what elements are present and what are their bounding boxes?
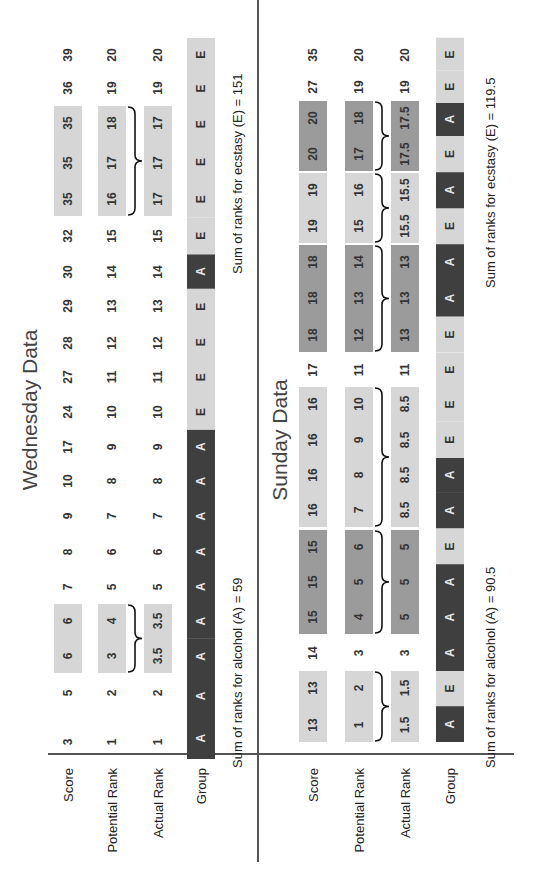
wed-actual-rank-cell: 2 [144,676,172,711]
wed-potential-rank-cell: 15 [98,219,126,254]
sun-label-potential-rank: Potential Rank [352,768,367,878]
sun-actual-rank-cell: 5 [391,565,419,600]
wed-group-cell-alcohol: A [187,638,215,675]
wed-label-potential-rank: Potential Rank [105,768,120,878]
sun-actual-rank-cell: 1.5 [391,671,419,706]
wed-score-cell: 39 [54,38,82,73]
sun-score-cell: 13 [299,708,327,743]
sun-group-cell-alcohol: A [436,492,464,529]
sun-tie-brace [374,173,390,243]
wed-potential-rank-cell: 13 [98,289,126,324]
wed-group-cell-ecstasy: E [187,324,215,360]
sun-actual-rank-cell: 3 [391,636,419,671]
sun-tie-brace-path [375,102,389,170]
sun-actual-rank-cell: 15.5 [391,173,419,208]
sun-actual-rank-cell: 8.5 [391,387,419,422]
sun-score-cell: 20 [299,137,327,172]
wed-tie-brace-path [128,605,142,672]
sun-potential-rank-cell: 20 [345,38,373,73]
sun-potential-rank-cell: 7 [345,493,373,528]
sun-potential-rank-cell: 16 [345,173,373,208]
sun-sum-alcohol: Sum of ranks for alcohol (A) = 90.5 [483,567,498,768]
sun-score-cell: 35 [299,38,327,73]
wed-group-cell-ecstasy: E [187,217,215,254]
section-divider [257,0,259,862]
sun-score-cell: 16 [299,387,327,422]
wed-potential-rank-cell: 10 [98,395,126,430]
wed-score-cell: 3 [54,725,82,760]
wed-score-cell: 35 [54,146,82,181]
sun-actual-rank-cell: 5 [391,600,419,635]
sun-potential-rank-cell: 17 [345,137,373,172]
sun-score-cell: 19 [299,209,327,244]
sun-group-cell-ecstasy: E [436,352,464,387]
sun-tie-brace [374,387,390,527]
sun-potential-rank-cell: 2 [345,671,373,706]
wed-group-cell-alcohol: A [187,569,215,604]
sun-tie-brace [374,245,390,352]
wed-score-cell: 32 [54,219,82,254]
wed-label-group: Group [194,768,209,878]
wed-actual-rank-cell: 3.5 [144,604,172,639]
sun-group-cell-alcohol: A [436,599,464,635]
wed-score-cell: 24 [54,395,82,430]
sun-group-cell-alcohol: A [436,706,464,742]
wed-potential-rank-cell: 19 [98,71,126,106]
wed-group-cell-alcohol: A [187,254,215,290]
wed-score-cell: 6 [54,604,82,639]
wed-potential-rank-cell: 7 [98,499,126,534]
wed-actual-rank-cell: 8 [144,464,172,499]
sun-sum-ecstasy: Sum of ranks for ecstasy (E) = 119.5 [483,78,498,288]
sun-actual-rank-cell: 13 [391,318,419,353]
sun-group-cell-ecstasy: E [436,387,464,423]
sun-score-cell: 15 [299,565,327,600]
wed-score-cell: 5 [54,676,82,711]
sun-potential-rank-cell: 19 [345,70,373,105]
wed-group-cell-alcohol: A [187,604,215,639]
wed-score-cell: 8 [54,535,82,570]
wednesday-title: Wednesday Data [18,330,42,491]
wed-sum-ecstasy: Sum of ranks for ecstasy (E) = 151 [230,74,245,275]
sun-potential-rank-cell: 18 [345,101,373,136]
sun-actual-rank-cell: 8.5 [391,423,419,458]
wed-actual-rank-cell: 15 [144,219,172,254]
sun-actual-rank-cell: 13 [391,281,419,316]
sun-potential-rank-cell: 15 [345,209,373,244]
sun-actual-rank-cell: 8.5 [391,458,419,493]
wed-potential-rank-cell: 5 [98,570,126,605]
sun-tie-brace [374,671,390,742]
wed-group-cell-alcohol: A [187,674,215,718]
sun-potential-rank-cell: 14 [345,245,373,280]
wed-actual-rank-cell: 13 [144,289,172,324]
rank-table-figure: Wednesday Data Sunday Data Score Potenti… [0,0,536,886]
sun-score-cell: 27 [299,70,327,105]
wed-score-cell: 17 [54,430,82,465]
wed-potential-rank-cell: 12 [98,326,126,361]
sun-tie-brace-path [375,246,389,351]
wed-potential-rank-cell: 11 [98,360,126,395]
sun-score-cell: 13 [299,671,327,706]
wed-tie-brace [127,106,143,216]
sun-tie-brace-path [375,531,389,633]
wed-actual-rank-cell: 6 [144,535,172,570]
wed-potential-rank-cell: 4 [98,604,126,639]
sun-actual-rank-cell: 8.5 [391,493,419,528]
sun-actual-rank-cell: 17.5 [391,137,419,172]
wed-score-cell: 35 [54,106,82,141]
sun-label-actual-rank: Actual Rank [398,768,413,878]
wed-actual-rank-cell: 17 [144,106,172,141]
sun-group-cell-ecstasy: E [436,208,464,245]
sun-actual-rank-cell: 20 [391,38,419,73]
sun-potential-rank-cell: 12 [345,318,373,353]
sun-group-cell-ecstasy: E [436,38,464,72]
wed-potential-rank-cell: 3 [98,639,126,674]
sun-group-cell-alcohol: A [436,172,464,209]
sun-score-cell: 19 [299,173,327,208]
wed-group-cell-ecstasy: E [187,289,215,325]
sun-score-cell: 16 [299,423,327,458]
wed-actual-rank-cell: 7 [144,499,172,534]
sun-group-cell-alcohol: A [436,280,464,317]
sun-actual-rank-cell: 15.5 [391,209,419,244]
sun-group-cell-ecstasy: E [436,422,464,458]
sun-score-cell: 18 [299,245,327,280]
